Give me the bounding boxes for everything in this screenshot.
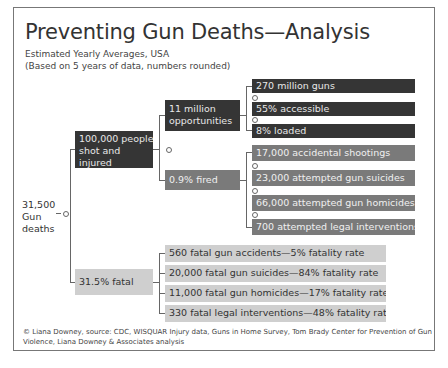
connector-dot [166, 147, 172, 153]
node-text: opportunities [169, 115, 236, 127]
connector [70, 149, 71, 283]
node-opportunities: 11 million opportunities [165, 100, 240, 131]
node-attempted-legal-interventions: 700 attempted legal interventions [252, 219, 415, 235]
node-guns: 270 million guns [252, 79, 415, 93]
node-loaded: 8% loaded [252, 124, 415, 138]
connector-dot [252, 212, 258, 218]
node-text: injured [79, 157, 149, 168]
connector-dot [252, 163, 258, 169]
connector-dot [63, 211, 69, 217]
root-label-1: Gun [22, 211, 55, 223]
source-footnote: © Liana Downey, source: CDC, WISQUAR Inj… [23, 327, 433, 347]
connector [246, 152, 247, 228]
subtitle-line-2: (Based on 5 years of data, numbers round… [25, 61, 230, 71]
node-fatal-homicides: 11,000 fatal gun homicides—17% fatality … [165, 285, 386, 302]
node-accidental-shootings: 17,000 accidental shootings [252, 145, 415, 161]
connector [246, 86, 247, 131]
node-accessible: 55% accessible [252, 102, 415, 116]
root-value: 31,500 [22, 199, 55, 211]
node-fired: 0.9% fired [165, 170, 240, 190]
node-text: shot and [79, 145, 149, 157]
node-fatal: 31.5% fatal [75, 269, 153, 295]
connector [56, 213, 61, 214]
node-fatal-suicides: 20,000 fatal gun suicides—84% fatality r… [165, 265, 386, 282]
page-title: Preventing Gun Deaths—Analysis [25, 20, 370, 44]
root-label-2: deaths [22, 223, 55, 235]
node-fatal-legal-interventions: 330 fatal legal interventions—48% fatali… [165, 305, 386, 322]
node-attempted-suicides: 23,000 attempted gun suicides [252, 170, 415, 186]
connector [159, 253, 160, 314]
node-text: 11 million [169, 103, 236, 115]
connector [159, 115, 160, 180]
connector-dot [252, 95, 258, 101]
node-fatal-accidents: 560 fatal gun accidents—5% fatality rate [165, 245, 386, 262]
root-node-gun-deaths: 31,500 Gun deaths [22, 199, 55, 235]
node-text: 100,000 people [79, 133, 149, 145]
node-shot-injured: 100,000 people shot and injured [75, 131, 153, 168]
node-attempted-homicides: 66,000 attempted gun homicides [252, 195, 415, 211]
subtitle-line-1: Estimated Yearly Averages, USA [25, 49, 169, 59]
connector-dot [252, 117, 258, 123]
connector-dot [252, 188, 258, 194]
